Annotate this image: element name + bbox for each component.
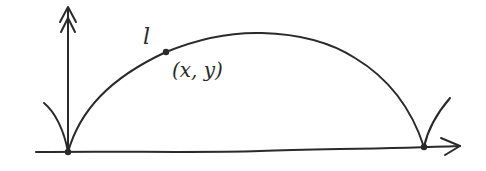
right-cusp-point — [421, 144, 427, 150]
diagram-canvas — [0, 0, 486, 171]
point-label: (x, y) — [172, 58, 223, 82]
curve-label: l — [143, 24, 150, 49]
left-tail-curve — [44, 103, 68, 152]
horizontal-axis — [36, 146, 460, 152]
cycloid-diagram: l (x, y) — [0, 0, 486, 171]
curve-point-xy — [163, 49, 169, 55]
origin-point — [65, 149, 71, 155]
curve-l — [68, 33, 424, 152]
